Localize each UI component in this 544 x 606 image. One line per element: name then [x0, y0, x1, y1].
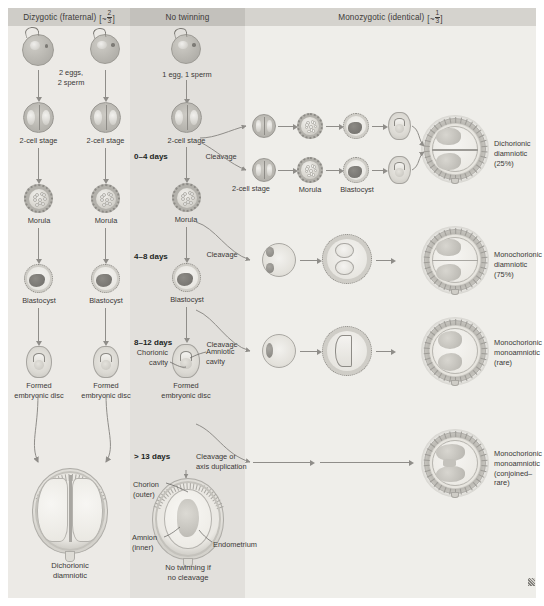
fetus-upper — [438, 331, 463, 348]
stage-label-blastocyst-mz: Blastocyst — [334, 185, 380, 195]
cleavage-label-2: Cleavage — [200, 250, 244, 260]
column-background-monozygotic — [245, 8, 536, 598]
sac-dichorionic-diamniotic — [424, 118, 486, 180]
chorionic-villus — [480, 470, 486, 473]
blastomere — [94, 110, 102, 125]
chorionic-villus — [476, 129, 482, 134]
arrow-down — [38, 70, 39, 98]
zygote-dizygotic-a — [22, 34, 54, 66]
chorionic-villus — [464, 119, 467, 125]
zygote-dizygotic-b — [90, 34, 120, 64]
arrow-down — [38, 148, 39, 180]
dividing-membrane-thin — [432, 260, 478, 261]
chorionic-villus — [443, 173, 446, 179]
arrow-right — [376, 260, 392, 261]
chorionic-villus — [469, 323, 473, 329]
chorionic-villus — [424, 459, 430, 461]
morula-cell — [310, 172, 314, 176]
chorionic-villus — [464, 433, 467, 439]
chorionic-villus — [427, 134, 433, 138]
morula-cell — [186, 200, 190, 204]
nucleus — [97, 41, 107, 49]
chorionic-villus — [434, 482, 439, 487]
blastocyst-expanded-mz-r2 — [322, 234, 372, 284]
column-header-monozygotic: Monozygotic (identical) [~13] — [245, 8, 536, 26]
chorionic-villus — [455, 228, 456, 234]
chorionic-villus — [424, 262, 430, 264]
blastocyst-dizygotic-a — [24, 264, 53, 293]
chorionic-villus — [427, 245, 433, 249]
chorionic-villus — [469, 485, 473, 491]
chorionic-villus — [424, 347, 430, 349]
chorionic-villus — [427, 448, 433, 452]
polar-body — [192, 43, 195, 46]
blastocyst-mz-r1-top — [343, 113, 369, 139]
chorionic-villus — [434, 168, 439, 173]
cervix — [451, 178, 458, 184]
sperm-icon — [24, 26, 39, 38]
inner-cell-mass — [348, 166, 362, 178]
morula-cell — [310, 128, 314, 132]
result-label-no-twinning: No twinning if no cleavage — [148, 563, 228, 583]
chorionic-villus — [449, 319, 451, 325]
figure-canvas: Dizygotic (fraternal) [~23] No twinning … — [0, 0, 544, 606]
chorionic-villus — [469, 373, 473, 379]
chorionic-villus — [469, 282, 473, 288]
result-label-mz-row4: Monochorionicmonoamniotic(conjoined–rare… — [494, 449, 544, 488]
cleavage-plane — [187, 105, 188, 129]
embryonic-disc — [34, 360, 45, 370]
morula-cells — [301, 117, 319, 135]
single-amniotic-sac — [335, 335, 352, 368]
blastomere — [267, 120, 273, 131]
chorionic-villus — [438, 485, 442, 491]
chorionic-villus — [430, 164, 436, 169]
stage-label-2cell-b: 2-cell stage — [78, 136, 133, 146]
blastocyst-expanded-mz-r3 — [322, 326, 372, 376]
embryonic-disc-mz-r1-top — [388, 112, 411, 140]
chorionic-villus — [424, 151, 430, 153]
cervix — [451, 380, 458, 386]
stage-label-morula-a: Morula — [18, 216, 60, 226]
arrow-down — [105, 148, 106, 180]
chorionic-villus — [480, 358, 486, 361]
embryonic-disc-mz-r1-bottom — [388, 156, 411, 184]
fetus-lower — [438, 353, 463, 370]
result-label-mz-row1: Dichorionicdiamniotic (25%) — [494, 139, 544, 168]
cervix — [451, 289, 458, 295]
chorionic-villus — [464, 284, 467, 290]
arrow-down — [186, 227, 187, 259]
arrow-right — [326, 170, 340, 171]
result-label-dizygotic: Dichorionic diamniotic — [34, 561, 106, 581]
cleavage-plane — [264, 161, 265, 179]
chorionic-villus — [460, 174, 462, 180]
cleavage-label-1: Cleavage — [199, 152, 243, 162]
chorionic-villus — [473, 327, 478, 332]
sperm-icon — [173, 27, 187, 38]
chorionic-villus — [476, 478, 482, 483]
column-header-monozygotic-label: Monozygotic (identical) — [338, 13, 424, 22]
fetus-upper — [436, 239, 461, 256]
two-cell-no-twinning — [171, 102, 202, 133]
embryonic-disc — [180, 358, 191, 369]
stage-label-2cell-a: 2-cell stage — [11, 136, 66, 146]
arrow-right — [300, 351, 318, 352]
chorionic-villus — [481, 353, 487, 355]
blastocyst-dizygotic-b — [91, 264, 120, 293]
arrow-right — [376, 351, 392, 352]
arrow-right — [278, 126, 294, 127]
amnion-label: Amnion (inner) — [132, 533, 172, 553]
chorionic-villus — [438, 373, 442, 379]
morula-cell — [305, 167, 309, 171]
arrow-right — [320, 462, 410, 463]
chorionic-villus — [460, 488, 462, 494]
chorionic-villus — [443, 119, 446, 125]
chorionic-villus — [481, 151, 487, 153]
chorionic-villus — [460, 285, 462, 291]
fetus — [177, 499, 199, 537]
morula-mz-r1-bottom — [297, 157, 323, 183]
two-cell-mz-r1-top — [252, 114, 276, 138]
blastocyst-mz-r2 — [262, 243, 296, 277]
morula-cell — [33, 195, 37, 199]
chorionic-villus — [479, 160, 485, 164]
chorionic-villus — [430, 129, 436, 134]
